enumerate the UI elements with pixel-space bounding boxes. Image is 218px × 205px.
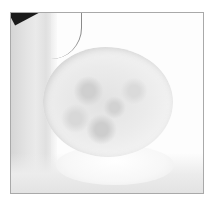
pompom-ball [43,47,173,157]
photo-frame [10,12,204,194]
